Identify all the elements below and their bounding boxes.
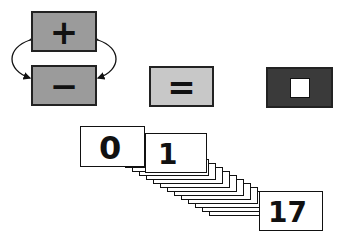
equals-symbol: =: [151, 68, 212, 105]
card-1: 1: [145, 133, 207, 173]
card-17-number: 17: [268, 196, 307, 229]
card-0-number: 0: [99, 129, 121, 167]
minus-box: −: [31, 65, 97, 106]
minus-symbol: −: [33, 67, 95, 104]
card-0: 0: [80, 126, 145, 167]
blank-box: [266, 67, 333, 108]
card-1-number: 1: [158, 138, 177, 171]
plus-symbol: +: [33, 13, 95, 50]
equals-box: =: [149, 66, 214, 107]
blank-square: [290, 78, 310, 98]
card-17: 17: [259, 191, 323, 231]
plus-box: +: [31, 11, 97, 52]
